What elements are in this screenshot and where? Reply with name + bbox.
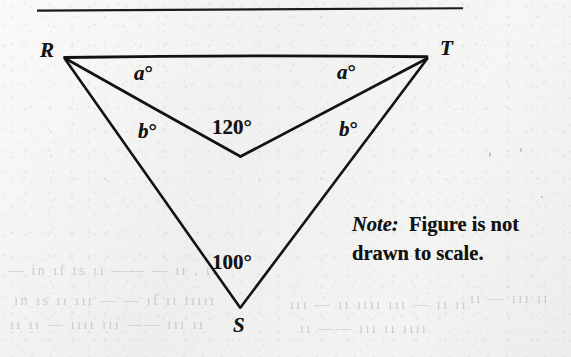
angle-label-120: 120° (212, 117, 252, 138)
angle-label-a-right: a° (337, 62, 356, 83)
figure-page: — in ıf ts ıı —— — ıı , ııın ıs ıı ııı —… (0, 0, 571, 357)
angle-label-b-left: b° (138, 121, 157, 142)
angle-label-a-left: a° (134, 63, 153, 84)
segment-ST (241, 59, 428, 308)
vertex-label-R: R (40, 40, 54, 61)
note-prefix: Note: (352, 213, 399, 235)
angle-var-a: a (337, 60, 348, 84)
top-horizontal-rule (37, 8, 463, 10)
segment-RT (65, 56, 428, 58)
angle-label-100: 100° (212, 252, 252, 273)
angle-var-b: b (138, 119, 149, 143)
figure-note: Note: Figure is not drawn to scale. (352, 210, 567, 268)
vertex-label-S: S (233, 315, 245, 336)
segment-VT (241, 59, 428, 157)
angle-label-b-right: b° (339, 119, 358, 140)
angle-var-b: b (339, 117, 350, 141)
vertex-label-T: T (440, 38, 453, 59)
angle-var-a: a (134, 61, 145, 85)
geometry-figure-drawing (0, 0, 571, 357)
